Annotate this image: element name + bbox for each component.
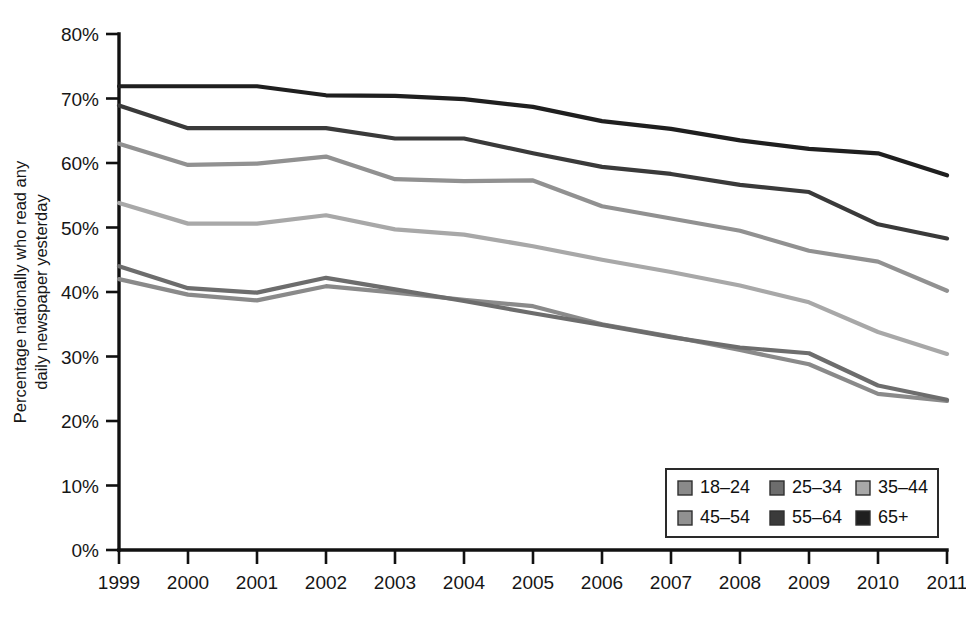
y-tick-label: 10% <box>61 476 99 497</box>
series-line-25-34 <box>119 266 947 400</box>
legend-item-label: 18–24 <box>700 477 750 497</box>
legend-swatch-icon <box>770 481 784 495</box>
legend-item-label: 25–34 <box>792 477 842 497</box>
x-tick-label: 2007 <box>650 572 692 593</box>
y-tick-label: 60% <box>61 153 99 174</box>
x-axis: 1999200020012002200320042005200620072008… <box>98 550 966 593</box>
legend-swatch-icon <box>678 481 692 495</box>
legend-item-label: 55–64 <box>792 507 842 527</box>
x-tick-label: 2003 <box>374 572 416 593</box>
x-tick-label: 2001 <box>236 572 278 593</box>
chart-legend[interactable]: 18–2425–3435–4445–5455–6465+ <box>666 469 938 537</box>
x-tick-label: 2002 <box>305 572 347 593</box>
series-line-35-44 <box>119 203 947 354</box>
x-tick-label: 2000 <box>167 572 209 593</box>
y-tick-label: 0% <box>72 540 100 561</box>
series-line-18-24 <box>119 279 947 401</box>
x-tick-label: 1999 <box>98 572 140 593</box>
x-tick-label: 2005 <box>512 572 554 593</box>
x-tick-label: 2011 <box>927 572 966 593</box>
legend-swatch-icon <box>770 511 784 525</box>
y-axis-title-line1: Percentage nationally who read any <box>11 160 29 423</box>
legend-swatch-icon <box>856 511 870 525</box>
y-tick-label: 80% <box>61 24 99 45</box>
x-tick-label: 2009 <box>788 572 830 593</box>
y-tick-label: 70% <box>61 89 99 110</box>
legend-item-label: 45–54 <box>700 507 750 527</box>
x-tick-label: 2010 <box>857 572 899 593</box>
legend-item-label: 35–44 <box>878 477 928 497</box>
legend-swatch-icon <box>678 511 692 525</box>
line-chart: Percentage nationally who read any daily… <box>0 0 966 621</box>
y-tick-label: 30% <box>61 347 99 368</box>
series-line-55-64 <box>119 106 947 239</box>
x-tick-label: 2006 <box>581 572 623 593</box>
legend-swatch-icon <box>856 481 870 495</box>
y-tick-label: 20% <box>61 411 99 432</box>
y-axis-title: Percentage nationally who read any daily… <box>11 160 50 423</box>
y-tick-label: 40% <box>61 282 99 303</box>
x-tick-label: 2004 <box>443 572 486 593</box>
chart-figure: Percentage nationally who read any daily… <box>0 0 966 621</box>
x-tick-label: 2008 <box>719 572 761 593</box>
y-axis: 80%70%60%50%40%30%20%10%0% <box>61 24 119 561</box>
series-lines <box>119 86 947 401</box>
y-axis-title-line2: daily newspaper yesterday <box>32 194 50 390</box>
series-line-45-54 <box>119 144 947 291</box>
legend-item-label: 65+ <box>878 507 909 527</box>
y-tick-label: 50% <box>61 218 99 239</box>
